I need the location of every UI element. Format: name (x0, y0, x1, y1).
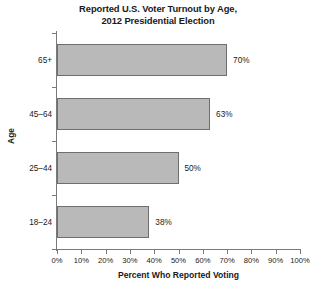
x-axis-title: Percent Who Reported Voting (57, 270, 300, 280)
x-axis-tick (276, 249, 277, 254)
x-axis-tick (130, 249, 131, 254)
x-axis-tick (300, 249, 301, 254)
x-axis-tick-label: 80% (244, 256, 259, 265)
x-axis-tick-label: 100% (290, 256, 309, 265)
y-axis-labels: 65+ 45–64 25–44 18–24 (0, 33, 52, 249)
x-axis-tick (251, 249, 252, 254)
x-axis-tick (227, 249, 228, 254)
x-axis-tick (106, 249, 107, 254)
bar-65plus (57, 44, 227, 76)
plot-area: 70% 63% 50% 38% (57, 33, 300, 249)
x-axis-tick-label: 40% (147, 256, 162, 265)
x-axis-tick (81, 249, 82, 254)
bar-value-65plus: 70% (233, 56, 249, 65)
y-axis-label-18-24: 18–24 (6, 218, 52, 227)
x-axis-tick (203, 249, 204, 254)
x-axis-tick-label: 70% (219, 256, 234, 265)
bar-18-24 (57, 206, 149, 238)
x-axis-tick (179, 249, 180, 254)
bar-value-45-64: 63% (216, 110, 232, 119)
x-axis-tick-label: 30% (122, 256, 137, 265)
chart-title-line-1: Reported U.S. Voter Turnout by Age, (79, 3, 237, 14)
bar-25-44 (57, 152, 179, 184)
y-axis-label-65plus: 65+ (6, 56, 52, 65)
x-axis-tick (154, 249, 155, 254)
x-axis-tick (57, 249, 58, 254)
x-axis-tick-label: 50% (171, 256, 186, 265)
x-axis-tick-label: 20% (98, 256, 113, 265)
bar-value-25-44: 50% (185, 164, 201, 173)
x-axis-tick-label: 60% (195, 256, 210, 265)
chart-title-line-2: 2012 Presidential Election (0, 15, 316, 27)
x-axis-tick-label: 0% (52, 256, 63, 265)
bar-chart: Reported U.S. Voter Turnout by Age, 2012… (0, 0, 316, 291)
chart-title: Reported U.S. Voter Turnout by Age, 2012… (0, 3, 316, 26)
y-axis-label-45-64: 45–64 (6, 110, 52, 119)
y-axis-label-25-44: 25–44 (6, 164, 52, 173)
x-axis-tick-label: 10% (74, 256, 89, 265)
bar-value-18-24: 38% (155, 218, 171, 227)
bar-45-64 (57, 98, 210, 130)
x-axis-tick-label: 90% (268, 256, 283, 265)
